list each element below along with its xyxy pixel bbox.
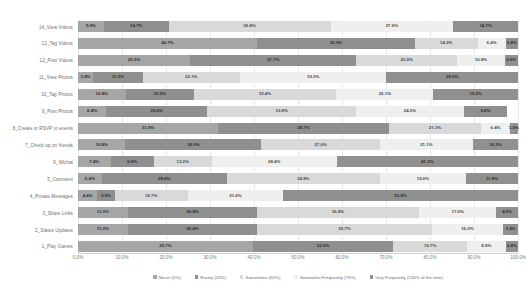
legend-item[interactable]: Very Frequently (100% of the time) [370,275,443,280]
bar-value-label: 3.9% [101,194,111,198]
bar-segment: 41.2% [337,156,518,167]
bar-value-label: 2.8% [507,244,517,248]
bar-value-label: 3.4% [505,227,515,231]
bar-segment: 23.0% [106,106,207,117]
bar-row: 3_Share Links11.3%29.4%36.8%17.6%4.9% [78,207,518,218]
bar-segment: 37.7% [190,55,356,66]
bar-value-label: 14.7% [130,24,142,28]
bar-value-label: 15.5% [153,92,165,96]
bar-value-label: 10.8% [475,58,487,62]
bar-value-label: 22.1% [185,75,197,79]
bar-value-label: 35.9% [330,41,342,45]
bar-segment: 10.8% [78,89,126,100]
bar-value-label: 27.0% [314,143,326,147]
bar-row: 1_Play Games39.7%32.0%16.7%8.8%2.8% [78,241,518,252]
bar-segment: 9.8% [464,106,507,117]
bar-row: 7_Check up on friends10.8%30.9%27.0%21.1… [78,139,518,150]
category-label: 11_View Photos [39,75,73,80]
bar-row: 4_Private Messages4.4%3.9%16.7%21.6%53.4… [78,190,518,201]
category-label: 6_IMchat [53,159,73,164]
bar-segment: 2.8% [506,241,518,252]
bar-segment: 22.1% [143,72,240,83]
x-axis-tick: 90.0% [467,255,480,260]
chart-legend: Never (0%)Rarely (25%)Sometimes (50%)Som… [78,271,518,283]
bar-value-label: 32.0% [317,244,329,248]
bar-value-label: 17.6% [451,210,463,214]
bar-value-label: 11.8% [486,177,498,181]
bar-segment: 33.3% [240,72,387,83]
bar-value-label: 19.2% [469,92,481,96]
bar-row: 12_Post Videos25.5%37.7%23.0%10.8%2.9% [78,55,518,66]
bar-value-label: 10.3% [489,143,501,147]
bar-value-label: 9.8% [480,109,490,113]
bar-value-label: 29.4% [186,210,198,214]
x-axis-tick: 20.0% [159,255,172,260]
category-label: 9_Post Photos [42,109,73,114]
bar-row: 11_View Photos3.4%11.3%22.1%33.3%29.9% [78,72,518,83]
bar-segment: 6.4% [481,123,509,134]
bar-value-label: 21.1% [429,126,441,130]
bar-segment: 29.4% [128,207,257,218]
legend-label: Sometimes (50%) [245,275,280,280]
bar-value-label: 16.2% [461,227,473,231]
bar-segment: 36.8% [257,207,419,218]
bar-value-label: 40.7% [161,41,173,45]
bar-value-label: 5.9% [86,24,96,28]
bar-segment: 14.2% [415,38,477,49]
bar-value-label: 21.1% [420,143,432,147]
bar-value-label: 28.4% [268,160,280,164]
bar-segment: 27.9% [331,21,454,32]
bar-value-label: 29.4% [186,227,198,231]
bar-rows: 14_View Videos5.9%14.7%36.8%27.9%14.7%13… [78,20,518,253]
legend-swatch-icon [240,275,244,279]
bar-value-label: 30.9% [187,143,199,147]
bar-row: 10_Tag Photos10.8%15.5%32.4%22.1%19.2% [78,89,518,100]
legend-item[interactable]: Rarely (25%) [195,275,226,280]
bar-row: 9_Post Photos6.4%23.0%33.8%24.5%9.8% [78,106,518,117]
bar-segment: 33.8% [207,106,356,117]
category-label: 7_Check up on friends [25,142,73,147]
category-label: 1_Play Games [42,244,73,249]
bar-segment: 21.1% [380,139,473,150]
bar-segment: 32.0% [253,241,394,252]
bar-value-label: 11.3% [112,75,124,79]
legend-swatch-icon [195,275,199,279]
bar-segment: 16.7% [115,190,188,201]
bar-value-label: 3.4% [80,75,90,79]
bar-segment: 38.7% [218,123,388,134]
bar-segment: 2.9% [505,55,518,66]
bar-value-label: 10.8% [96,92,108,96]
category-label: 12_Post Videos [40,58,73,63]
bar-value-label: 8.8% [481,244,491,248]
bar-value-label: 4.4% [83,194,93,198]
bar-row: 13_Tag Videos40.7%35.9%14.2%6.4%2.8% [78,38,518,49]
bar-row: 8_Create or RSVP to events31.9%38.7%21.1… [78,123,518,134]
bar-segment: 6.4% [78,106,106,117]
category-label: 14_View Videos [39,24,73,29]
bar-segment: 11.8% [466,173,518,184]
bar-value-label: 16.7% [424,244,436,248]
legend-item[interactable]: Never (0%) [153,275,181,280]
bar-value-label: 5.4% [85,177,95,181]
bar-segment: 21.1% [389,123,482,134]
legend-label: Rarely (25%) [200,275,226,280]
legend-item[interactable]: Sometimes (50%) [240,275,280,280]
bar-segment: 22.1% [336,89,433,100]
bar-segment: 34.8% [227,173,380,184]
bar-segment: 27.0% [261,139,380,150]
bar-value-label: 21.6% [229,194,241,198]
bar-value-label: 6.4% [487,41,497,45]
bar-value-label: 32.4% [259,92,271,96]
x-axis-tick: 60.0% [335,255,348,260]
bar-segment: 5.4% [78,173,102,184]
bar-segment: 39.7% [78,241,253,252]
bar-segment: 13.2% [154,156,212,167]
bar-segment: 29.9% [386,72,518,83]
bar-segment: 24.5% [356,106,464,117]
legend-item[interactable]: Somewhat Frequently (75%) [294,275,355,280]
bar-segment: 9.8% [111,156,154,167]
bar-value-label: 22.1% [379,92,391,96]
legend-swatch-icon [294,275,298,279]
bar-value-label: 38.7% [297,126,309,130]
bar-segment: 7.4% [78,156,111,167]
